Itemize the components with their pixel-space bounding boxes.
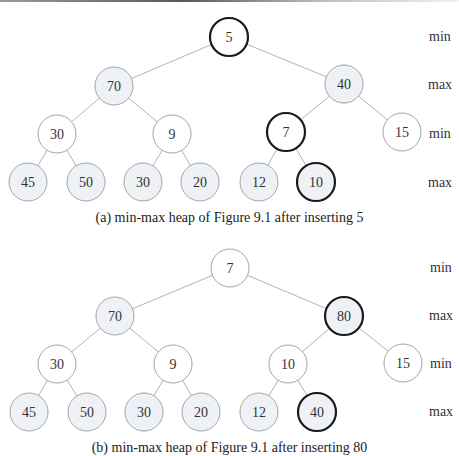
heap-node: 30: [38, 345, 76, 383]
heap-node: 40: [325, 65, 363, 103]
heap-a: 5 70 40 30 9 7 15 45: [9, 18, 452, 201]
heap-node: 45: [10, 393, 48, 431]
node-value: 9: [169, 127, 176, 142]
node-value: 10: [281, 357, 295, 372]
node-value: 40: [337, 77, 351, 92]
heap-node: 45: [9, 163, 47, 201]
node-value: 15: [396, 356, 410, 371]
heap-node: 40: [298, 393, 336, 431]
heap-node: 10: [297, 163, 335, 201]
heap-node: 5: [210, 18, 248, 56]
node-value: 12: [252, 405, 266, 420]
node-value: 80: [337, 309, 351, 324]
heap-node: 80: [325, 297, 363, 335]
level-label-min: min: [429, 126, 451, 141]
heap-node: 20: [182, 393, 220, 431]
heap-node: 30: [124, 163, 162, 201]
heap-node: 50: [67, 163, 105, 201]
node-value: 9: [170, 357, 177, 372]
heap-node: 70: [95, 67, 133, 105]
caption-a: (a) min-max heap of Figure 9.1 after ins…: [0, 210, 459, 226]
level-label-max: max: [428, 175, 452, 190]
node-value: 30: [50, 127, 64, 142]
node-value: 50: [80, 405, 94, 420]
heap-node: 30: [125, 393, 163, 431]
level-label-max: max: [429, 308, 453, 323]
heap-node: 30: [38, 115, 76, 153]
heap-node: 15: [383, 113, 421, 151]
level-label-max: max: [429, 404, 453, 419]
heap-node: 50: [68, 393, 106, 431]
heap-node: 7: [267, 113, 305, 151]
node-value: 20: [194, 405, 208, 420]
level-label-min: min: [430, 260, 452, 275]
level-label-max: max: [428, 77, 452, 92]
caption-b: (b) min-max heap of Figure 9.1 after ins…: [0, 440, 459, 456]
node-value: 45: [21, 175, 35, 190]
heap-node: 20: [181, 163, 219, 201]
node-value: 30: [137, 405, 151, 420]
node-value: 45: [22, 405, 36, 420]
node-value: 40: [310, 405, 324, 420]
node-value: 7: [283, 125, 290, 140]
node-value: 12: [252, 175, 266, 190]
heap-node: 12: [240, 163, 278, 201]
heap-b-level-labels: min max min max: [429, 260, 453, 419]
node-value: 7: [227, 261, 234, 276]
node-value: 30: [50, 357, 64, 372]
heap-node: 15: [384, 344, 422, 382]
heap-node: 7: [211, 249, 249, 287]
node-value: 10: [309, 175, 323, 190]
heap-node: 70: [96, 297, 134, 335]
node-value: 50: [79, 175, 93, 190]
heap-a-edges: [28, 37, 402, 182]
heap-node: 10: [269, 345, 307, 383]
node-value: 15: [395, 125, 409, 140]
node-value: 5: [226, 30, 233, 45]
heap-node: 12: [240, 393, 278, 431]
heap-b-edges: [29, 268, 403, 412]
node-value: 70: [108, 309, 122, 324]
level-label-min: min: [430, 356, 452, 371]
node-value: 20: [193, 175, 207, 190]
node-value: 30: [136, 175, 150, 190]
heap-a-level-labels: min max min max: [428, 29, 452, 190]
heap-node: 9: [154, 345, 192, 383]
heap-node: 9: [153, 115, 191, 153]
heap-b: 7 70 80 30 9 10 15 45: [10, 249, 453, 431]
node-value: 70: [107, 79, 121, 94]
level-label-min: min: [429, 29, 451, 44]
